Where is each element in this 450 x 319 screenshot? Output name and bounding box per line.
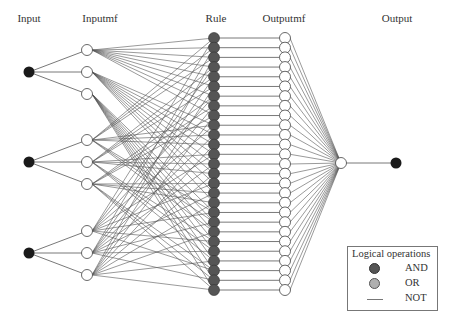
rule-node <box>209 120 220 131</box>
rule-node <box>209 52 220 63</box>
input-mf-edge <box>29 72 87 94</box>
layer-label-rule: Rule <box>206 12 227 24</box>
mf-rule-edge <box>92 203 214 275</box>
output-node <box>391 158 402 169</box>
mf-rule-edge <box>92 184 214 280</box>
mf-rule-edge <box>92 253 214 280</box>
rule-node <box>209 236 220 247</box>
layer-label-inputmf: Inputmf <box>82 12 117 24</box>
inputmf-node <box>82 67 93 78</box>
inputmf-node <box>82 179 93 190</box>
rule-node <box>209 255 220 266</box>
rule-node <box>209 207 220 218</box>
rule-node <box>209 285 220 296</box>
rule-node <box>209 159 220 170</box>
outputmf-aggregate-edge <box>290 163 341 251</box>
mf-rule-edge <box>92 50 214 57</box>
not-line-icon <box>367 299 383 300</box>
rule-node <box>209 178 220 189</box>
rule-node <box>209 246 220 257</box>
mf-rule-edge <box>92 275 214 290</box>
rule-node <box>209 226 220 237</box>
outputmf-aggregate-edge <box>290 96 341 163</box>
mf-rule-edge <box>92 232 214 275</box>
inputmf-node <box>82 226 93 237</box>
rule-node <box>209 81 220 92</box>
legend-label-not: NOT <box>405 292 427 303</box>
mf-rule-edge <box>92 140 214 232</box>
or-node-icon <box>369 278 380 289</box>
rule-node <box>209 275 220 286</box>
rule-node <box>209 110 220 121</box>
input-mf-edge <box>29 253 87 275</box>
rule-node <box>209 217 220 228</box>
outputmf-aggregate-edge <box>290 163 341 261</box>
inputmf-node <box>82 45 93 56</box>
mf-rule-edge <box>92 261 214 275</box>
outputmf-aggregate-edge <box>290 163 341 164</box>
inputmf-node <box>82 270 93 281</box>
rule-node <box>209 168 220 179</box>
rule-node <box>209 188 220 199</box>
outputmf-aggregate-edge <box>290 163 341 271</box>
aggregate-node <box>336 158 347 169</box>
legend-box: Logical operations AND OR NOT <box>347 246 438 311</box>
mf-rule-edge <box>92 174 214 275</box>
inputmf-node <box>82 157 93 168</box>
outputmf-aggregate-edge <box>290 163 341 203</box>
input-node <box>24 157 35 168</box>
input-node <box>24 67 35 78</box>
rule-node <box>209 100 220 111</box>
input-node <box>24 248 35 259</box>
rule-node <box>209 129 220 140</box>
mf-rule-edge <box>92 50 214 86</box>
rule-node <box>209 91 220 102</box>
rule-node <box>209 197 220 208</box>
legend-label-and: AND <box>405 262 428 273</box>
layer-label-outputmf: Outputmf <box>263 12 306 24</box>
rule-node <box>209 62 220 73</box>
rule-node <box>209 33 220 44</box>
mf-rule-edge <box>92 183 214 231</box>
and-node-icon <box>369 263 380 274</box>
rule-node <box>209 149 220 160</box>
layer-label-input: Input <box>17 12 40 24</box>
rule-node <box>209 71 220 82</box>
rule-node <box>209 265 220 276</box>
rule-node <box>209 139 220 150</box>
outputmf-aggregate-edge <box>290 163 341 290</box>
outputmf-aggregate-edge <box>290 48 341 163</box>
legend-label-or: OR <box>405 277 420 288</box>
layer-label-output: Output <box>382 12 413 24</box>
legend-title: Logical operations <box>352 248 430 259</box>
outputmf-node <box>280 285 291 296</box>
mf-rule-edge <box>92 48 214 140</box>
anfis-network-diagram: Input Inputmf Rule Outputmf Output Logic… <box>0 0 450 319</box>
legend-item-not: NOT <box>348 292 437 306</box>
inputmf-node <box>82 135 93 146</box>
legend-item-or: OR <box>348 277 437 291</box>
legend-item-and: AND <box>348 262 437 276</box>
input-mf-edge <box>29 140 87 162</box>
outputmf-aggregate-edge <box>290 77 341 163</box>
outputmf-aggregate-edge <box>290 67 341 163</box>
input-mf-edge <box>29 231 87 253</box>
outputmf-aggregate-edge <box>290 86 341 163</box>
inputmf-node <box>82 248 93 259</box>
input-mf-edge <box>29 162 87 184</box>
outputmf-aggregate-edge <box>290 163 341 242</box>
rule-node <box>209 42 220 53</box>
mf-rule-edge <box>92 50 214 77</box>
mf-rule-edge <box>92 94 214 212</box>
inputmf-node <box>82 89 93 100</box>
input-mf-edge <box>29 50 87 72</box>
outputmf-aggregate-edge <box>290 163 341 212</box>
mf-rule-edge <box>92 96 214 184</box>
